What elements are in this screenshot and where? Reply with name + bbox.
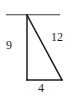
- figure-container: 9 12 4: [0, 0, 73, 98]
- label-vertical-leg: 9: [6, 39, 12, 51]
- label-hypotenuse: 12: [51, 31, 63, 43]
- triangle-hypotenuse: [27, 15, 62, 80]
- label-base-leg: 4: [38, 82, 44, 94]
